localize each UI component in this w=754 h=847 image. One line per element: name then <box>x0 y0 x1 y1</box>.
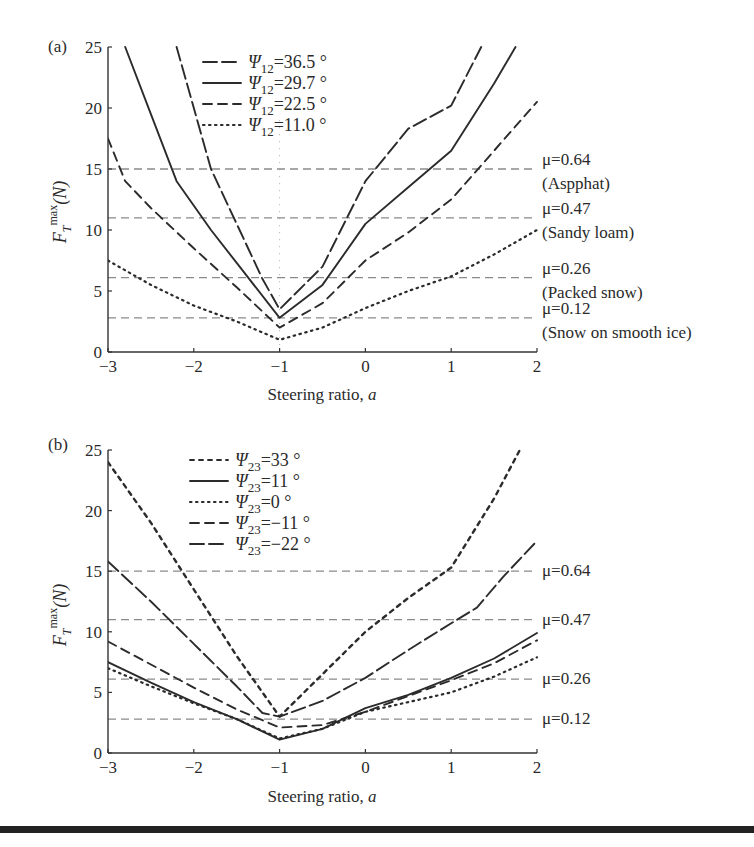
figure: (a) FTmax(N) μ=0.64(Aspphat)μ=0.47(Sandy… <box>0 0 754 847</box>
y-axis-label-a: FTmax(N) <box>46 181 74 244</box>
chart-a: (a) FTmax(N) μ=0.64(Aspphat)μ=0.47(Sandy… <box>0 0 754 420</box>
bottom-rule <box>0 826 754 833</box>
mu-label: μ=0.47 <box>542 199 591 218</box>
mu-label: μ=0.64 <box>542 150 591 169</box>
x-axis-label-b: Steering ratio, a <box>267 787 376 806</box>
y-axis-label-b: FTmax(N) <box>46 584 74 647</box>
x-tick-label: 0 <box>361 357 370 376</box>
series-line <box>108 102 537 328</box>
y-tick-label: 15 <box>85 160 102 179</box>
mu-label: μ=0.12 <box>542 709 590 728</box>
plot-area-b: μ=0.64μ=0.47μ=0.26μ=0.12−3−2−10120510152… <box>85 441 591 777</box>
x-tick-label: −2 <box>185 758 203 777</box>
series-line <box>108 640 537 727</box>
svg-text:FTmax(N): FTmax(N) <box>46 181 74 244</box>
chart-b: (b) FTmax(N) μ=0.64μ=0.47μ=0.26μ=0.12−3−… <box>0 400 754 820</box>
mu-label: μ=0.12 <box>542 299 590 318</box>
x-tick-label: 2 <box>533 357 542 376</box>
legend-label: Ψ12=11.0 ° <box>248 115 326 139</box>
y-tick-label: 10 <box>85 623 102 642</box>
mu-label: μ=0.26 <box>542 669 590 688</box>
svg-text:FTmax(N): FTmax(N) <box>46 584 74 647</box>
surface-label: (Aspphat) <box>542 174 610 193</box>
y-tick-label: 20 <box>85 502 102 521</box>
y-tick-label: 0 <box>94 343 103 362</box>
surface-label: (Sandy loam) <box>542 223 634 242</box>
y-tick-label: 20 <box>85 99 102 118</box>
series-line <box>108 657 537 738</box>
x-tick-label: −1 <box>271 357 289 376</box>
series-line <box>177 47 482 309</box>
y-tick-label: 15 <box>85 562 102 581</box>
series-line <box>108 541 537 717</box>
surface-label: (Snow on smooth ice) <box>542 323 692 342</box>
mu-label: μ=0.26 <box>542 259 590 278</box>
y-tick-label: 0 <box>94 744 103 763</box>
x-tick-label: 0 <box>361 758 370 777</box>
y-tick-label: 5 <box>94 683 103 702</box>
y-tick-label: 10 <box>85 221 102 240</box>
y-tick-label: 25 <box>85 38 102 57</box>
mu-label: μ=0.64 <box>542 561 591 580</box>
panel-label-a: (a) <box>48 37 67 56</box>
x-tick-label: 2 <box>533 758 542 777</box>
panel-label-b: (b) <box>48 435 68 454</box>
y-tick-label: 25 <box>85 441 102 460</box>
series-line <box>108 633 537 740</box>
mu-label: μ=0.47 <box>542 610 591 629</box>
x-tick-label: −1 <box>271 758 289 777</box>
legend-label: Ψ23=−22 ° <box>235 534 311 558</box>
y-tick-label: 5 <box>94 282 103 301</box>
x-tick-label: 1 <box>447 758 456 777</box>
plot-area-a: μ=0.64(Aspphat)μ=0.47(Sandy loam)μ=0.26(… <box>85 38 692 376</box>
x-tick-label: 1 <box>447 357 456 376</box>
x-tick-label: −2 <box>185 357 203 376</box>
